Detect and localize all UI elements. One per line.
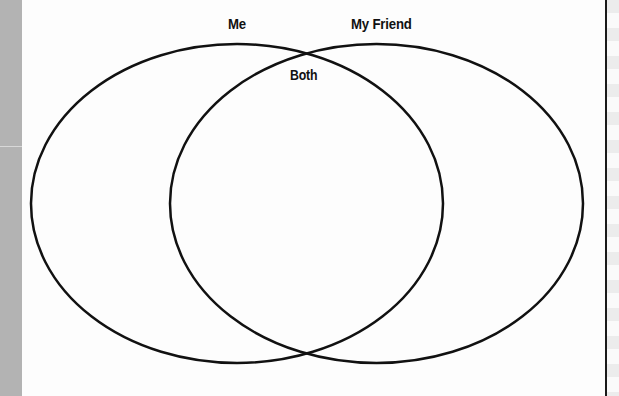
venn-circle-me (31, 44, 443, 363)
set-label-me: Me (228, 15, 246, 32)
venn-circle-my-friend (170, 44, 583, 363)
intersection-label-both: Both (290, 67, 317, 83)
set-label-my-friend: My Friend (351, 15, 412, 32)
venn-diagram (0, 0, 619, 396)
